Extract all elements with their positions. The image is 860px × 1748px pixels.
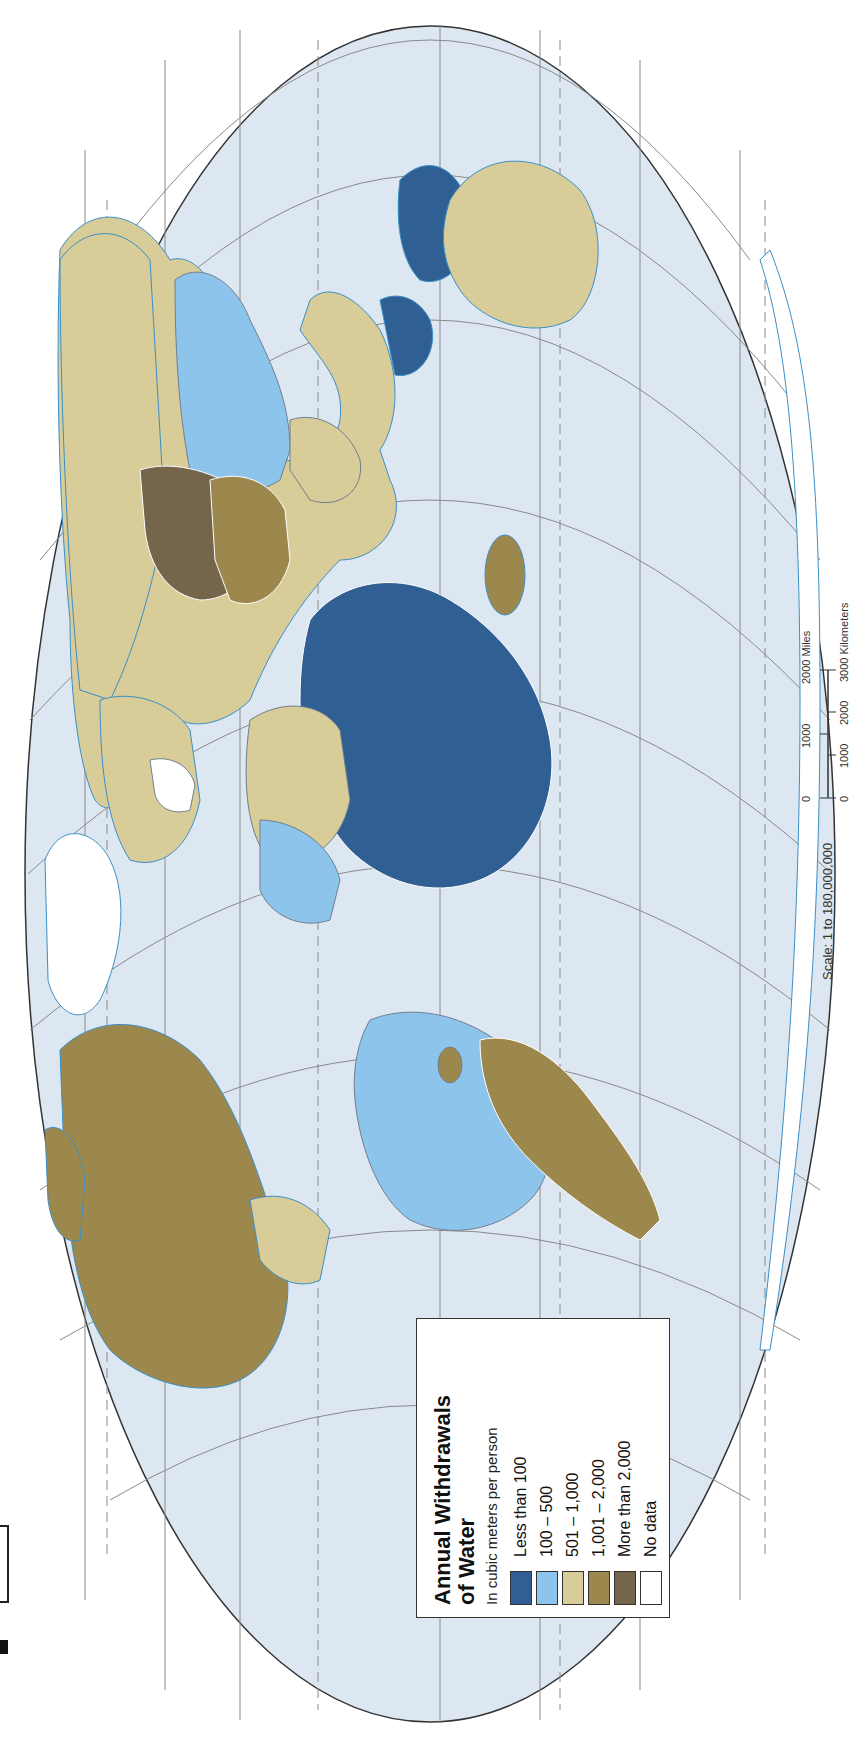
swatch-1001-2000 xyxy=(588,1571,610,1605)
atlas-page: Annual Withdrawals of Water In cubic met… xyxy=(0,0,860,1748)
miles-tick-0: 0 xyxy=(800,796,812,802)
swatch-501-1000 xyxy=(562,1571,584,1605)
page-margin-box xyxy=(0,1525,9,1603)
legend-label: Less than 100 xyxy=(512,1456,530,1557)
legend-title-line1: Annual Withdrawals xyxy=(431,1333,455,1605)
page-margin-mark xyxy=(0,1640,8,1654)
km-tick-0: 0 xyxy=(838,796,850,802)
scale-content: Scale: 1 to 180,000,000 0 1000 2000 Mile… xyxy=(798,520,860,980)
legend-item: 100 – 500 xyxy=(534,1333,560,1605)
legend-item: 1,001 – 2,000 xyxy=(586,1333,612,1605)
legend-item: More than 2,000 xyxy=(612,1333,638,1605)
scale-ratio: Scale: 1 to 180,000,000 xyxy=(820,843,835,980)
km-tick-1000: 1000 xyxy=(838,744,850,768)
legend-label: 1,001 – 2,000 xyxy=(590,1459,608,1557)
world-map: Annual Withdrawals of Water In cubic met… xyxy=(0,0,860,1748)
swatch-100-500 xyxy=(536,1571,558,1605)
miles-tick-1000: 1000 xyxy=(800,724,812,748)
legend-item: No data xyxy=(638,1333,664,1605)
legend-item: 501 – 1,000 xyxy=(560,1333,586,1605)
legend-label: More than 2,000 xyxy=(616,1440,634,1557)
legend-label: No data xyxy=(642,1501,660,1557)
miles-tick-2000: 2000 Miles xyxy=(800,631,812,684)
swatch-more-than-2000 xyxy=(614,1571,636,1605)
km-tick-2000: 2000 xyxy=(838,701,850,725)
legend-label: 100 – 500 xyxy=(538,1486,556,1557)
legend-label: 501 – 1,000 xyxy=(564,1472,582,1557)
legend-title-line2: of Water xyxy=(455,1333,479,1605)
legend-content: Annual Withdrawals of Water In cubic met… xyxy=(417,1319,671,1619)
swatch-less-than-100 xyxy=(510,1571,532,1605)
legend-item: Less than 100 xyxy=(508,1333,534,1605)
km-tick-3000: 3000 Kilometers xyxy=(838,603,850,683)
scale-bar: Scale: 1 to 180,000,000 0 1000 2000 Mile… xyxy=(798,520,860,980)
madagascar xyxy=(485,535,525,615)
legend-subtitle: In cubic meters per person xyxy=(483,1333,500,1605)
guianas xyxy=(438,1047,462,1083)
swatch-no-data xyxy=(640,1571,662,1605)
legend-box: Annual Withdrawals of Water In cubic met… xyxy=(416,1318,670,1618)
